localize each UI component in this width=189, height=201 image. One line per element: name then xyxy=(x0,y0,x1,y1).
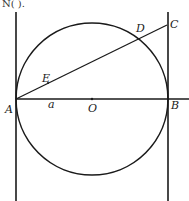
label-e: E xyxy=(41,72,50,85)
label-d: D xyxy=(135,22,145,35)
label-b: B xyxy=(170,99,179,112)
label-c: C xyxy=(170,18,179,31)
label-o: O xyxy=(88,102,97,115)
label-a: A xyxy=(4,103,13,116)
header-fragment: N( ). xyxy=(2,0,25,9)
segment-ac xyxy=(16,25,167,99)
label-segment-a: a xyxy=(48,98,55,111)
geometry-diagram: N( ). A B C D E O a xyxy=(0,0,189,201)
center-point-o xyxy=(91,98,93,100)
